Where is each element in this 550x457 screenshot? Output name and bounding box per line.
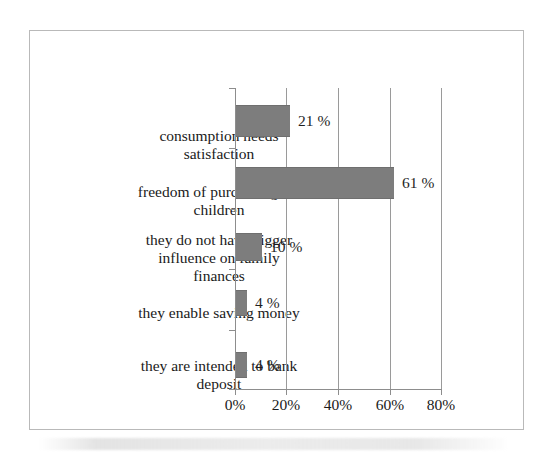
x-axis-tick-label-40: 40%	[324, 397, 352, 413]
x-axis-tick-label-60: 60%	[376, 397, 404, 413]
y-axis-tick	[229, 148, 235, 149]
bar-value-label: 10 %	[270, 239, 302, 255]
x-axis-tick-label-20: 20%	[272, 397, 300, 413]
y-axis-tick	[229, 269, 235, 270]
y-axis-tick	[229, 209, 235, 210]
gridline-40	[338, 88, 339, 390]
bar-row[interactable]: 61 %	[236, 167, 434, 199]
bar-row[interactable]: 21 %	[236, 105, 330, 137]
figure-frame: consumption needs satisfaction freedom o…	[29, 30, 524, 430]
bar-row[interactable]: 4 %	[236, 290, 280, 316]
x-axis-tick-labels: 0% 20% 40% 60% 80%	[235, 397, 442, 421]
y-axis-tick	[229, 330, 235, 331]
x-axis-tick	[286, 389, 287, 395]
bar-consumption-needs-satisfaction[interactable]	[236, 105, 290, 137]
bar-freedom-of-purchasing-for-children[interactable]	[236, 167, 394, 199]
bar-row[interactable]: 4 %	[236, 352, 280, 378]
x-axis-tick	[338, 389, 339, 395]
bar-chart: consumption needs satisfaction freedom o…	[30, 31, 523, 429]
y-axis-tick	[229, 88, 235, 89]
bar-value-label: 61 %	[402, 175, 434, 191]
x-axis-tick-label-80: 80%	[427, 397, 455, 413]
x-axis-tick-label-0: 0%	[225, 397, 246, 413]
x-axis-tick	[390, 389, 391, 395]
gridline-60	[390, 88, 391, 390]
scan-artifact	[40, 438, 510, 450]
bar-row[interactable]: 10 %	[236, 233, 302, 261]
bar-value-label: 4 %	[255, 357, 280, 373]
x-axis-tick	[235, 389, 236, 395]
bar-value-label: 4 %	[255, 295, 280, 311]
bar-intended-to-bank-deposit[interactable]	[236, 352, 247, 378]
plot-area: 21 % 61 % 10 % 4 % 4 %	[235, 88, 442, 390]
bar-no-bigger-influence-on-family-finances[interactable]	[236, 233, 262, 261]
bar-value-label: 21 %	[298, 113, 330, 129]
gridline-80	[441, 88, 442, 390]
x-axis-tick	[441, 389, 442, 395]
bar-they-enable-saving-money[interactable]	[236, 290, 247, 316]
